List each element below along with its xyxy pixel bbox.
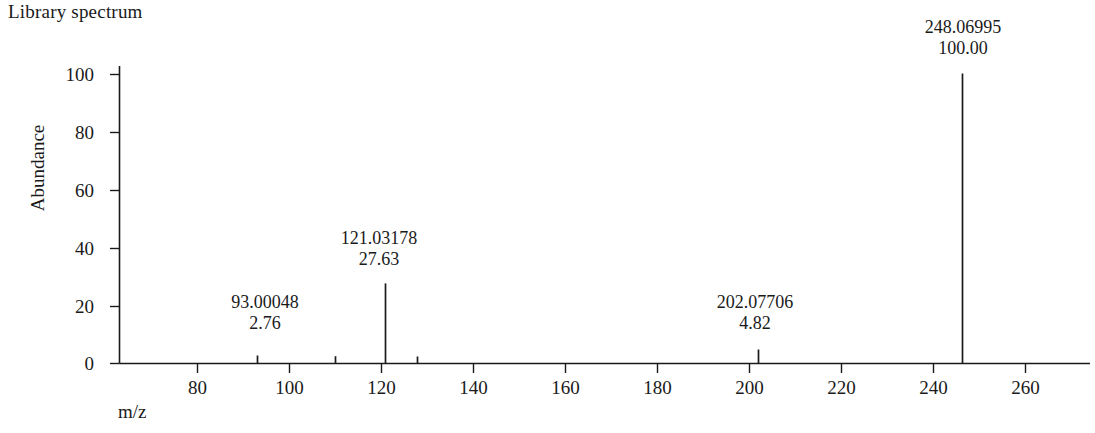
x-tick-label-260: 260: [995, 377, 1056, 398]
peak-abundance-248: 100.00: [863, 38, 1063, 59]
peak-mz-248: 248.06995: [863, 17, 1063, 38]
x-tick-label-140: 140: [443, 377, 504, 398]
mass-spectrum-figure: Library spectrum Abundance m/z: [0, 0, 1095, 433]
x-tick-label-100: 100: [259, 377, 320, 398]
peak-annotation-248: 248.06995 100.00: [863, 17, 1063, 59]
peak-mz-121: 121.03178: [279, 228, 479, 249]
y-tick-label-0: 0: [34, 353, 94, 374]
peak-mz-93: 93.00048: [165, 292, 365, 313]
x-axis-ticks: [198, 364, 1026, 374]
peak-mz-202: 202.07706: [655, 292, 855, 313]
x-tick-label-220: 220: [811, 377, 872, 398]
spectrum-plot-area: [0, 0, 1095, 433]
peak-annotation-202: 202.07706 4.82: [655, 292, 855, 334]
y-tick-label-100: 100: [34, 64, 94, 85]
y-tick-label-40: 40: [34, 238, 94, 259]
x-tick-label-200: 200: [719, 377, 780, 398]
x-tick-label-240: 240: [903, 377, 964, 398]
y-tick-label-60: 60: [34, 180, 94, 201]
y-axis-ticks: [110, 75, 120, 364]
peak-abundance-121: 27.63: [279, 249, 479, 270]
y-tick-label-20: 20: [34, 296, 94, 317]
x-tick-label-80: 80: [167, 377, 228, 398]
peak-annotation-93: 93.00048 2.76: [165, 292, 365, 334]
peak-annotation-121: 121.03178 27.63: [279, 228, 479, 270]
peak-abundance-202: 4.82: [655, 313, 855, 334]
y-tick-label-80: 80: [34, 122, 94, 143]
peak-abundance-93: 2.76: [165, 313, 365, 334]
x-tick-label-120: 120: [351, 377, 412, 398]
x-tick-label-180: 180: [627, 377, 688, 398]
x-tick-label-160: 160: [535, 377, 596, 398]
